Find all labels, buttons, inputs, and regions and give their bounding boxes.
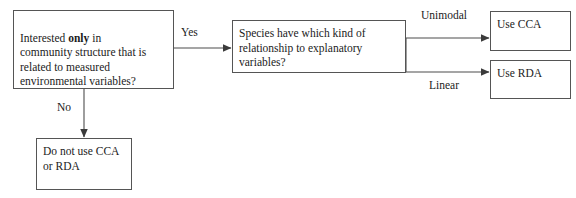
node-decision-relationship: Species have which kind of relationship … xyxy=(232,20,406,73)
node-outcome-rda: Use RDA xyxy=(490,60,571,99)
edge-label-yes: Yes xyxy=(181,26,198,39)
node-decision-community: Interested only in community structure t… xyxy=(13,10,174,89)
decision-community-bold-word: only xyxy=(68,32,89,44)
decision-community-text-1: Interested xyxy=(20,32,68,44)
edge-label-no: No xyxy=(57,101,71,114)
node-outcome-none: Do not use CCA or RDA xyxy=(36,138,132,190)
edge-label-unimodal: Unimodal xyxy=(421,9,467,22)
node-outcome-cca: Use CCA xyxy=(490,11,571,51)
flowchart-figure: Interested only in community structure t… xyxy=(0,0,576,198)
edge-label-linear: Linear xyxy=(429,79,459,92)
